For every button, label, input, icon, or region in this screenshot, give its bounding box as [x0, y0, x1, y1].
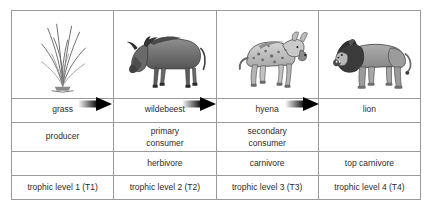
role-label: primary consumer	[146, 125, 183, 150]
organism-label: wildebeest	[145, 104, 185, 115]
diet-label: herbivore	[147, 158, 182, 169]
cell-role-empty	[318, 122, 420, 152]
cell-diet-carnivore: carnivore	[216, 152, 318, 176]
trophic-level-label: trophic level 2 (T2)	[130, 182, 200, 193]
organism-label: hyena	[256, 104, 279, 115]
cell-diet-top-carnivore: top carnivore	[318, 152, 420, 176]
food-chain-table: grass wildebeest hyena lion producer	[11, 10, 421, 200]
role-label-line2: consumer	[146, 138, 183, 148]
cell-diet-herbivore: herbivore	[114, 152, 216, 176]
cell-illustration-wildebeest	[114, 11, 216, 99]
cell-role-primary-consumer: primary consumer	[114, 122, 216, 152]
wildebeest-illustration	[114, 12, 215, 96]
table-row-diets: herbivore carnivore top carnivore	[12, 152, 421, 176]
grass-illustration	[12, 12, 113, 96]
cell-organism-wildebeest: wildebeest	[114, 98, 216, 122]
cell-organism-hyena: hyena	[216, 98, 318, 122]
role-label: secondary consumer	[248, 125, 287, 150]
cell-illustration-lion	[318, 11, 420, 99]
cell-level-t1: trophic level 1 (T1)	[12, 176, 114, 200]
cell-organism-lion: lion	[318, 98, 420, 122]
cell-role-producer: producer	[12, 122, 114, 152]
cell-illustration-hyena	[216, 11, 318, 99]
trophic-level-label: trophic level 4 (T4)	[334, 182, 404, 193]
cell-diet-empty	[12, 152, 114, 176]
cell-illustration-grass	[12, 11, 114, 99]
cell-organism-grass: grass	[12, 98, 114, 122]
table-row-organisms: grass wildebeest hyena lion	[12, 98, 421, 122]
trophic-level-label: trophic level 1 (T1)	[27, 182, 97, 193]
role-label-line1: primary	[151, 126, 179, 136]
cell-role-secondary-consumer: secondary consumer	[216, 122, 318, 152]
role-label-line1: secondary	[248, 126, 287, 136]
table-row-roles: producer primary consumer secondary	[12, 122, 421, 152]
lion-illustration	[319, 12, 420, 96]
diet-label: carnivore	[250, 158, 285, 169]
role-label: producer	[46, 131, 80, 142]
diet-label: top carnivore	[345, 158, 394, 169]
hyena-illustration	[217, 12, 318, 96]
cell-level-t2: trophic level 2 (T2)	[114, 176, 216, 200]
diagram-canvas: grass wildebeest hyena lion producer	[0, 0, 429, 214]
organism-label: grass	[52, 104, 73, 115]
cell-level-t4: trophic level 4 (T4)	[318, 176, 420, 200]
organism-label: lion	[363, 104, 376, 115]
table-row-illustrations	[12, 11, 421, 99]
trophic-level-label: trophic level 3 (T3)	[232, 182, 302, 193]
role-label-line2: consumer	[248, 138, 285, 148]
cell-level-t3: trophic level 3 (T3)	[216, 176, 318, 200]
table-row-trophic-levels: trophic level 1 (T1) trophic level 2 (T2…	[12, 176, 421, 200]
